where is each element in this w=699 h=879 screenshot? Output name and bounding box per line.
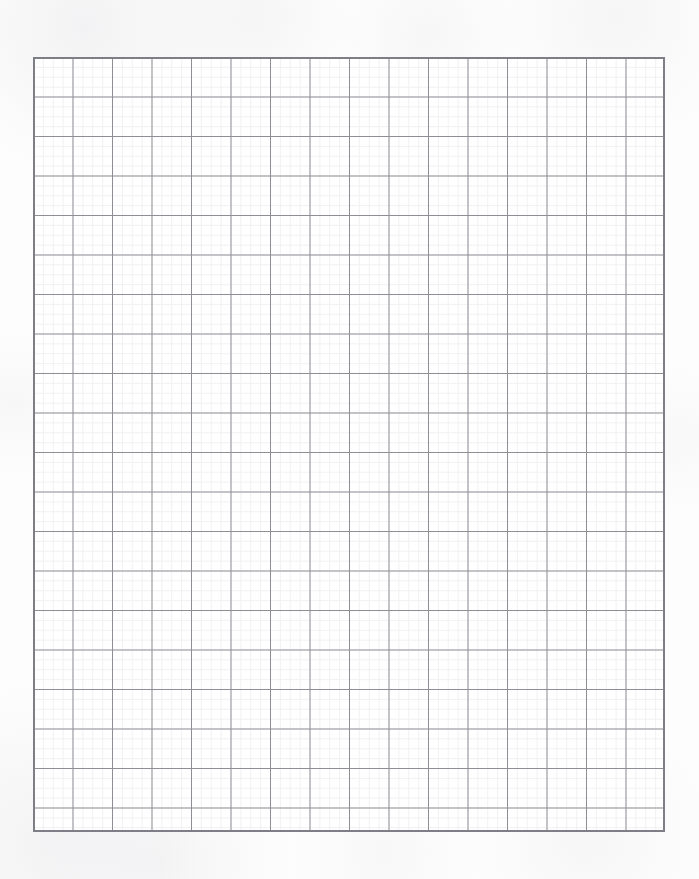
grid-minor-lines: [33, 57, 665, 832]
graph-paper-grid: [33, 57, 665, 832]
graph-paper-sheet: [0, 0, 699, 879]
grid-outer-border: [33, 57, 665, 832]
grid-major-lines: [33, 57, 665, 832]
